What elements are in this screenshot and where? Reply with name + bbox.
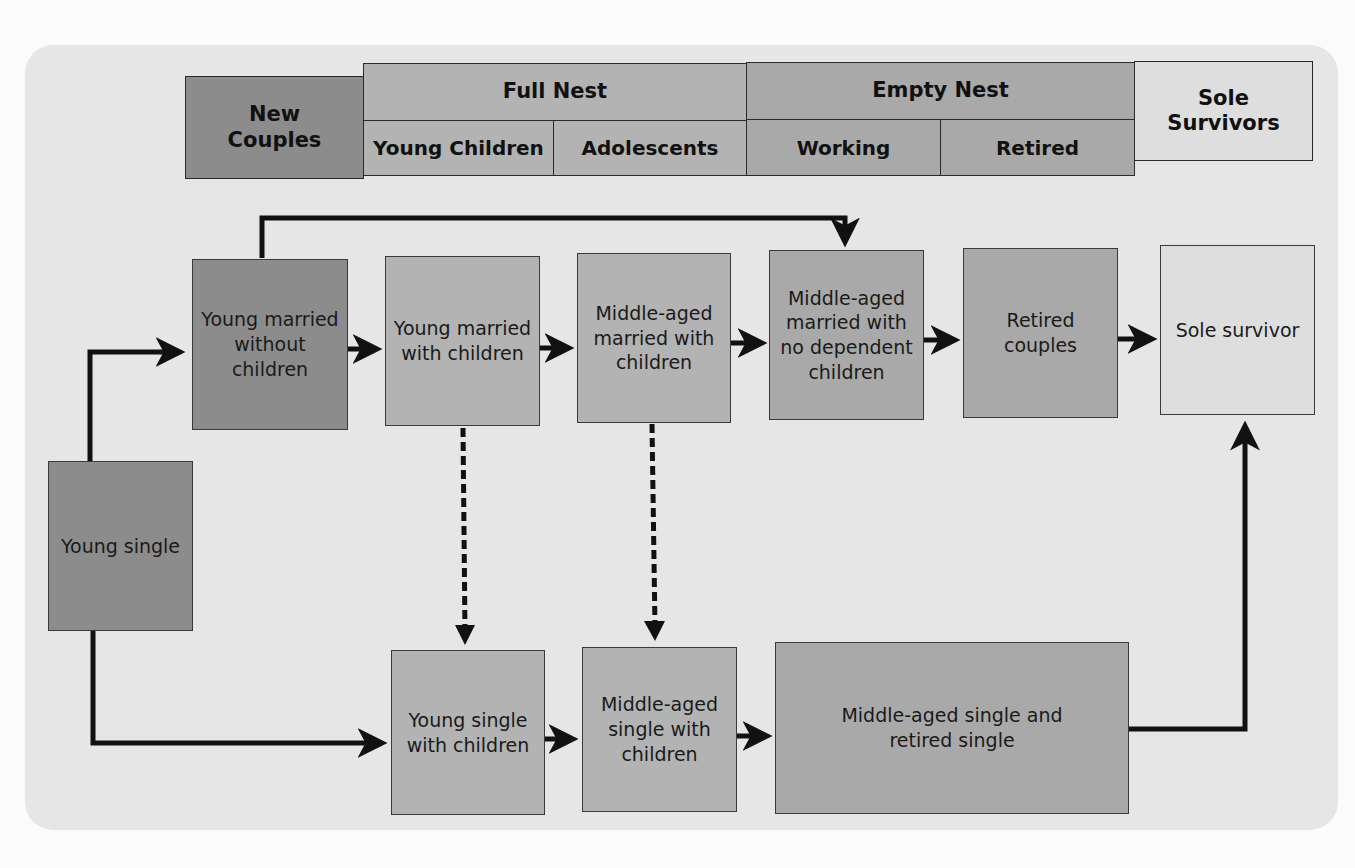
node-sole-survivor: Sole survivor (1160, 245, 1315, 415)
node-young-married-without-children: Young married without children (192, 259, 348, 430)
node-retired-couples: Retired couples (963, 248, 1118, 418)
node-young-married-with-children: Young married with children (385, 256, 540, 426)
node-middle-aged-and-retired-single: Middle-aged single and retired single (775, 642, 1129, 814)
node-young-single-with-children: Young single with children (391, 650, 545, 815)
node-middle-aged-married-with-children: Middle-aged married with children (577, 253, 731, 423)
node-middle-aged-married-no-dependent-children: Middle-aged married with no dependent ch… (769, 250, 924, 420)
node-young-single: Young single (48, 461, 193, 631)
node-middle-aged-single-with-children: Middle-aged single with children (582, 647, 737, 812)
